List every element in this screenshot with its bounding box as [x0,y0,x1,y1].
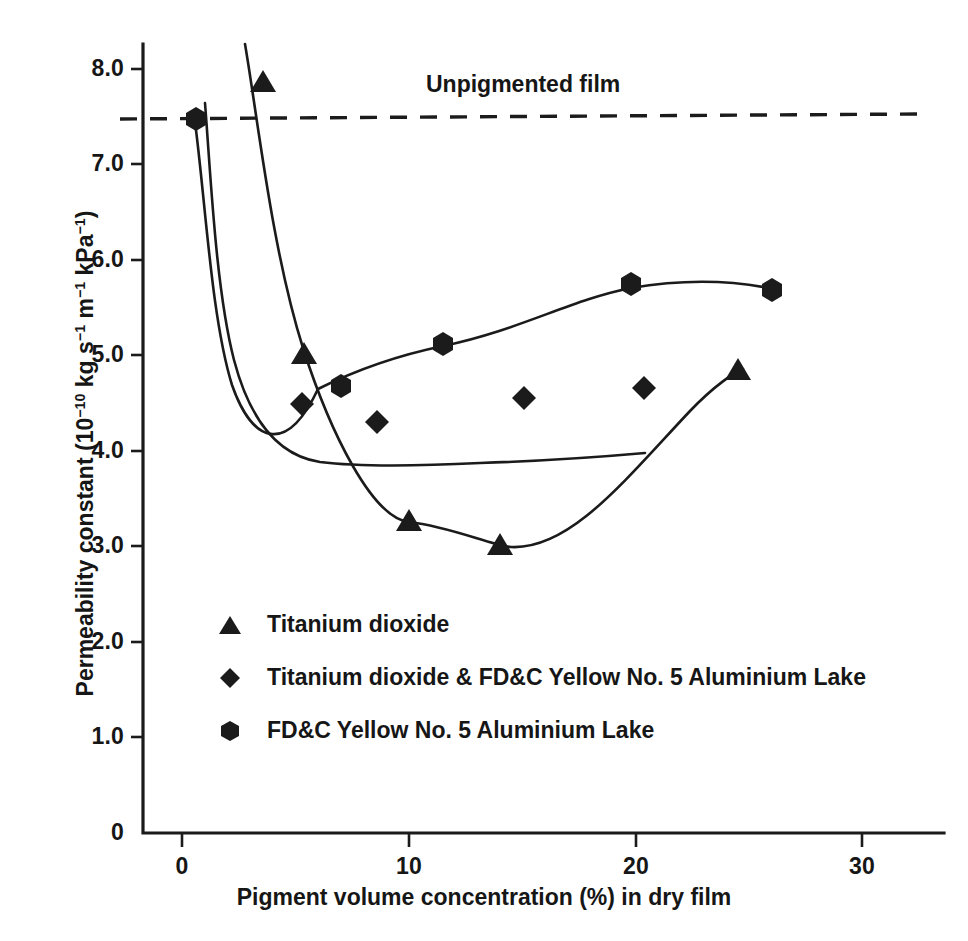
legend-label-titanium-dioxide-and-lake: Titanium dioxide & FD&C Yellow No. 5 Alu… [267,664,866,691]
legend-item-titanium-dioxide-and-lake: Titanium dioxide & FD&C Yellow No. 5 Alu… [213,651,913,704]
legend-label-titanium-dioxide: Titanium dioxide [267,611,449,638]
chart-legend: Titanium dioxide Titanium dioxide & FD&C… [213,598,913,757]
y-axis-title-mid-1: kg s [72,341,98,393]
diamond-marker-icon [213,661,247,695]
curve-titanium-dioxide-and-lake [205,103,645,466]
markers-titanium-dioxide [250,70,751,555]
hexagon-marker-icon [213,714,247,748]
y-axis-title-mid-3: kPa [72,235,98,282]
legend-item-lake: FD&C Yellow No. 5 Aluminium Lake [213,704,913,757]
y-axis-title-exp-1: −10 [72,394,88,418]
triangle-marker-icon [213,608,247,642]
x-tick-label-20: 20 [596,853,676,880]
curve-titanium-dioxide [245,44,743,547]
y-axis-title-exp-2: −1 [72,325,88,341]
x-tick-label-30: 30 [822,853,902,880]
x-axis-ticks [182,833,862,847]
legend-label-lake: FD&C Yellow No. 5 Aluminium Lake [267,717,654,744]
y-axis-title-suffix: ) [72,211,98,219]
y-axis-ticks [131,69,143,737]
unpigmented-film-label: Unpigmented film [426,71,620,98]
y-axis-title: Permeability constant (10−10 kg s−1 m−1 … [72,74,99,834]
unpigmented-film-reference-line [120,114,920,119]
markers-lake [186,107,782,398]
plot-area [0,0,968,941]
x-tick-label-10: 10 [369,853,449,880]
chart-figure: 8.0 7.0 6.0 5.0 4.0 3.0 2.0 1.0 0 0 10 2… [0,0,968,941]
x-axis-title: Pigment volume concentration (%) in dry … [0,884,968,911]
y-axis-title-prefix: Permeability constant (10 [72,418,98,697]
x-tick-label-0: 0 [142,853,222,880]
y-axis-title-exp-3: −1 [72,282,88,298]
y-axis-title-exp-4: −1 [72,218,88,234]
legend-item-titanium-dioxide: Titanium dioxide [213,598,913,651]
curve-lake [196,130,774,434]
y-axis-title-mid-2: m [72,298,98,325]
